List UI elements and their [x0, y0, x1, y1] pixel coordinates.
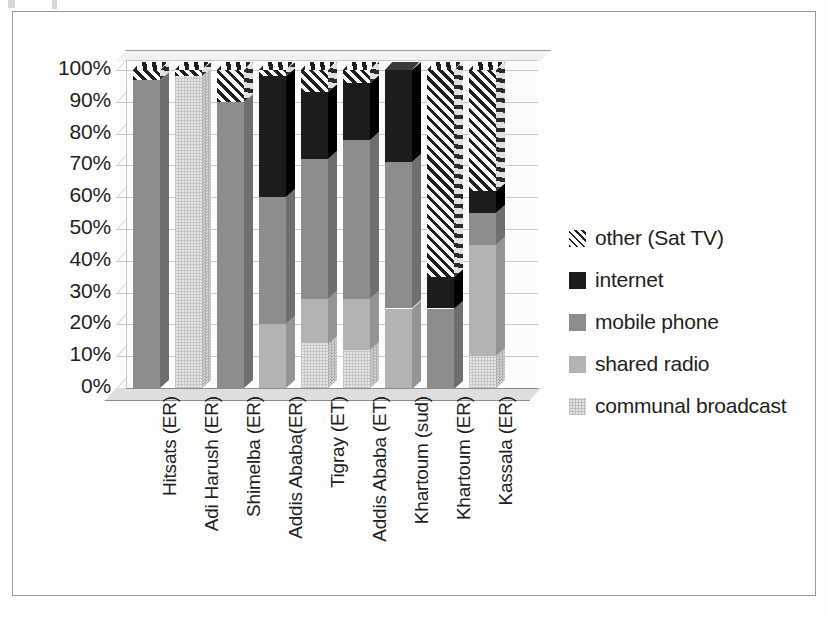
- x-axis-tick-label: Adi Harush (ER): [201, 396, 223, 576]
- x-axis-tick-label: Khartoum (ER): [453, 396, 475, 576]
- bar-segment-side-face: [328, 291, 337, 344]
- bar-segment[interactable]: [217, 102, 244, 388]
- bar-segment-side-face: [244, 94, 253, 388]
- bar-segment[interactable]: [301, 159, 328, 299]
- bar-segment[interactable]: [427, 70, 454, 277]
- y-axis-tick-label: 30%: [23, 279, 111, 303]
- bar-segment-side-face: [370, 75, 379, 140]
- bar-segment[interactable]: [133, 70, 160, 80]
- bar-segment[interactable]: [301, 92, 328, 159]
- legend-item[interactable]: communal broadcast: [569, 385, 819, 427]
- bar-segment[interactable]: [259, 324, 286, 388]
- bar-segment-side-face: [202, 68, 211, 388]
- legend-item-label: internet: [595, 268, 663, 292]
- bar-segment[interactable]: [343, 83, 370, 140]
- bar-segment[interactable]: [301, 299, 328, 344]
- bar-segment[interactable]: [217, 70, 244, 102]
- x-axis-tick-label: Hitsats (ER): [159, 396, 181, 576]
- chart-frame: 100%90%80%70%60%50%40%30%20%10%0% Hitsat…: [12, 11, 816, 596]
- bar-segment[interactable]: [259, 76, 286, 197]
- y-axis-tick-label: 10%: [23, 342, 111, 366]
- x-axis-tick-label: Kassala (ER): [495, 396, 517, 576]
- y-axis-tick-label: 40%: [23, 247, 111, 271]
- bar-segment[interactable]: [133, 80, 160, 388]
- bar-group[interactable]: [133, 12, 169, 388]
- bar-segment[interactable]: [343, 70, 370, 83]
- y-axis-tick-label: 20%: [23, 310, 111, 334]
- bar-segment[interactable]: [343, 299, 370, 350]
- bar-segment[interactable]: [343, 350, 370, 388]
- bar-segment[interactable]: [469, 356, 496, 388]
- legend-item[interactable]: shared radio: [569, 343, 819, 385]
- bar-segment-side-face: [286, 316, 295, 388]
- bar-segment-side-face: [286, 68, 295, 197]
- bar-group[interactable]: [469, 12, 505, 388]
- legend-swatch-icon: [569, 398, 586, 415]
- bar-group[interactable]: [301, 12, 337, 388]
- x-axis-tick-label: Khartoum (sud): [411, 396, 433, 576]
- y-axis-tick-label: 60%: [23, 183, 111, 207]
- x-axis-tick-label: Addis Ababa (ET): [369, 396, 391, 576]
- y-axis-tick-label: 90%: [23, 88, 111, 112]
- bar-segment-side-face: [328, 335, 337, 388]
- legend-item-label: other (Sat TV): [595, 226, 724, 250]
- legend-item[interactable]: other (Sat TV): [569, 217, 819, 259]
- bar-segment[interactable]: [301, 343, 328, 388]
- x-axis-tick-label: Tigray (ET): [327, 396, 349, 576]
- bar-segment-side-face: [412, 62, 421, 162]
- bar-segment-side-face: [286, 189, 295, 324]
- legend-item-label: shared radio: [595, 352, 709, 376]
- legend-swatch-icon: [569, 356, 586, 373]
- legend-item[interactable]: mobile phone: [569, 301, 819, 343]
- bar-segment[interactable]: [259, 70, 286, 76]
- x-axis-labels: Hitsats (ER)Adi Harush (ER)Shimelba (ER)…: [13, 396, 553, 586]
- bar-segment-side-face: [328, 84, 337, 159]
- bar-segment[interactable]: [259, 197, 286, 324]
- plot-floor-edge: [126, 388, 538, 389]
- bar-segment-side-face: [412, 154, 421, 308]
- bar-group[interactable]: [259, 12, 295, 388]
- bar-segment[interactable]: [385, 309, 412, 389]
- chart-page: 100%90%80%70%60%50%40%30%20%10%0% Hitsat…: [0, 0, 828, 622]
- x-axis-tick-label: Addis Ababa(ER): [285, 396, 307, 576]
- bar-segment[interactable]: [385, 162, 412, 308]
- y-axis-tick-label: 100%: [23, 56, 111, 80]
- bar-segment[interactable]: [427, 277, 454, 309]
- plot-area: 100%90%80%70%60%50%40%30%20%10%0% Hitsat…: [13, 12, 817, 597]
- bar-segment[interactable]: [469, 245, 496, 356]
- chart-legend: other (Sat TV)internetmobile phoneshared…: [569, 217, 819, 427]
- bar-group[interactable]: [217, 12, 253, 388]
- legend-swatch-icon: [569, 272, 586, 289]
- bar-segment-side-face: [160, 71, 169, 388]
- bar-group[interactable]: [385, 12, 421, 388]
- bar-segment[interactable]: [427, 309, 454, 389]
- legend-swatch-icon: [569, 314, 586, 331]
- bar-segment[interactable]: [469, 191, 496, 213]
- bar-segment-side-face: [370, 291, 379, 350]
- legend-item-label: communal broadcast: [595, 394, 786, 418]
- bar-segment[interactable]: [175, 76, 202, 388]
- scan-artifact: [8, 0, 15, 8]
- y-axis-tick-label: 50%: [23, 215, 111, 239]
- bar-segment-side-face: [370, 132, 379, 299]
- legend-item[interactable]: internet: [569, 259, 819, 301]
- bar-segment-side-face: [454, 62, 463, 277]
- y-axis-tick-label: 0%: [23, 374, 111, 398]
- bar-segment-side-face: [454, 300, 463, 388]
- bar-segment-side-face: [412, 300, 421, 388]
- bar-group[interactable]: [343, 12, 379, 388]
- y-axis-tick-label: 80%: [23, 120, 111, 144]
- bar-segment[interactable]: [175, 70, 202, 76]
- legend-item-label: mobile phone: [595, 310, 719, 334]
- bar-segment[interactable]: [385, 70, 412, 162]
- bar-group[interactable]: [175, 12, 211, 388]
- bar-segment-side-face: [328, 151, 337, 299]
- bar-segment[interactable]: [301, 70, 328, 92]
- bar-segment[interactable]: [343, 140, 370, 299]
- bar-segment[interactable]: [469, 213, 496, 245]
- bar-group[interactable]: [427, 12, 463, 388]
- bar-segment[interactable]: [469, 70, 496, 191]
- bar-segment-side-face: [496, 62, 505, 191]
- bar-segment-side-face: [496, 237, 505, 356]
- legend-swatch-icon: [569, 230, 586, 247]
